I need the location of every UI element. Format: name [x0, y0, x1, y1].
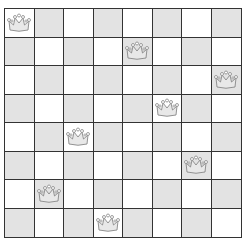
board-square[interactable] — [64, 123, 94, 152]
crown-icon — [7, 13, 31, 33]
crown-icon — [96, 213, 120, 233]
board-square[interactable] — [153, 95, 183, 124]
board-square[interactable] — [123, 66, 153, 95]
crown-icon — [66, 127, 90, 147]
board-square[interactable] — [123, 95, 153, 124]
board-square[interactable] — [123, 209, 153, 238]
board-square[interactable] — [212, 95, 242, 124]
board-square[interactable] — [64, 180, 94, 209]
board-square[interactable] — [212, 180, 242, 209]
board-square[interactable] — [5, 152, 35, 181]
board-square[interactable] — [94, 66, 124, 95]
board-square[interactable] — [94, 38, 124, 67]
board-square[interactable] — [94, 180, 124, 209]
board-square[interactable] — [5, 95, 35, 124]
board-square[interactable] — [5, 180, 35, 209]
crown-icon — [214, 70, 238, 90]
crown-icon — [155, 98, 179, 118]
board-square[interactable] — [182, 209, 212, 238]
board-square[interactable] — [123, 152, 153, 181]
board-square[interactable] — [123, 38, 153, 67]
board-square[interactable] — [153, 123, 183, 152]
chess-board — [4, 8, 242, 238]
board-square[interactable] — [35, 9, 65, 38]
board-square[interactable] — [64, 95, 94, 124]
board-square[interactable] — [35, 152, 65, 181]
board-square[interactable] — [212, 152, 242, 181]
board-square[interactable] — [35, 66, 65, 95]
board-square[interactable] — [123, 9, 153, 38]
board-square[interactable] — [94, 95, 124, 124]
board-square[interactable] — [123, 123, 153, 152]
board-square[interactable] — [35, 180, 65, 209]
board-square[interactable] — [212, 9, 242, 38]
board-square[interactable] — [182, 66, 212, 95]
board-square[interactable] — [94, 123, 124, 152]
board-square[interactable] — [212, 123, 242, 152]
board-square[interactable] — [182, 180, 212, 209]
board-square[interactable] — [212, 66, 242, 95]
board-square[interactable] — [212, 38, 242, 67]
board-square[interactable] — [35, 209, 65, 238]
board-square[interactable] — [212, 209, 242, 238]
board-square[interactable] — [64, 66, 94, 95]
board-square[interactable] — [153, 66, 183, 95]
board-square[interactable] — [182, 152, 212, 181]
board-square[interactable] — [64, 9, 94, 38]
board-square[interactable] — [5, 38, 35, 67]
board-square[interactable] — [94, 9, 124, 38]
board-square[interactable] — [35, 123, 65, 152]
board-square[interactable] — [123, 180, 153, 209]
board-square[interactable] — [153, 38, 183, 67]
board-square[interactable] — [64, 38, 94, 67]
board-square[interactable] — [94, 209, 124, 238]
board-square[interactable] — [153, 152, 183, 181]
board-square[interactable] — [182, 123, 212, 152]
crown-icon — [125, 41, 149, 61]
board-square[interactable] — [64, 152, 94, 181]
board-square[interactable] — [153, 209, 183, 238]
board-square[interactable] — [182, 95, 212, 124]
board-square[interactable] — [182, 9, 212, 38]
board-square[interactable] — [153, 180, 183, 209]
board-square[interactable] — [5, 9, 35, 38]
board-square[interactable] — [182, 38, 212, 67]
board-square[interactable] — [5, 209, 35, 238]
board-square[interactable] — [94, 152, 124, 181]
board-square[interactable] — [35, 95, 65, 124]
board-square[interactable] — [5, 123, 35, 152]
crown-icon — [184, 155, 208, 175]
crown-icon — [37, 184, 61, 204]
board-square[interactable] — [35, 38, 65, 67]
board-square[interactable] — [153, 9, 183, 38]
board-square[interactable] — [5, 66, 35, 95]
board-square[interactable] — [64, 209, 94, 238]
